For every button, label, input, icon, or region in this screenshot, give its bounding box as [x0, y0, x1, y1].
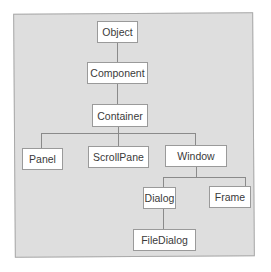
diagram-panel	[13, 12, 255, 258]
edge-dialog-filedialog	[163, 209, 164, 229]
edge-object-component	[117, 42, 118, 62]
node-scrollpane: ScrollPane	[88, 146, 149, 168]
node-window: Window	[165, 145, 227, 167]
node-container: Container	[92, 104, 148, 127]
node-dialog: Dialog	[143, 187, 176, 209]
edge-bus-scrollpane	[118, 133, 119, 146]
node-panel: Panel	[22, 148, 63, 170]
node-object: Object	[97, 21, 138, 43]
window-children-bus	[163, 177, 246, 178]
node-frame: Frame	[209, 186, 251, 208]
edge-bus-frame	[245, 177, 246, 186]
node-component: Component	[87, 62, 148, 84]
edge-window-bus	[196, 167, 197, 177]
node-filedialog: FileDialog	[133, 229, 196, 251]
edge-component-container	[117, 84, 118, 104]
edge-bus-panel	[41, 133, 42, 148]
edge-bus-dialog	[163, 177, 164, 187]
edge-bus-window	[195, 133, 196, 145]
